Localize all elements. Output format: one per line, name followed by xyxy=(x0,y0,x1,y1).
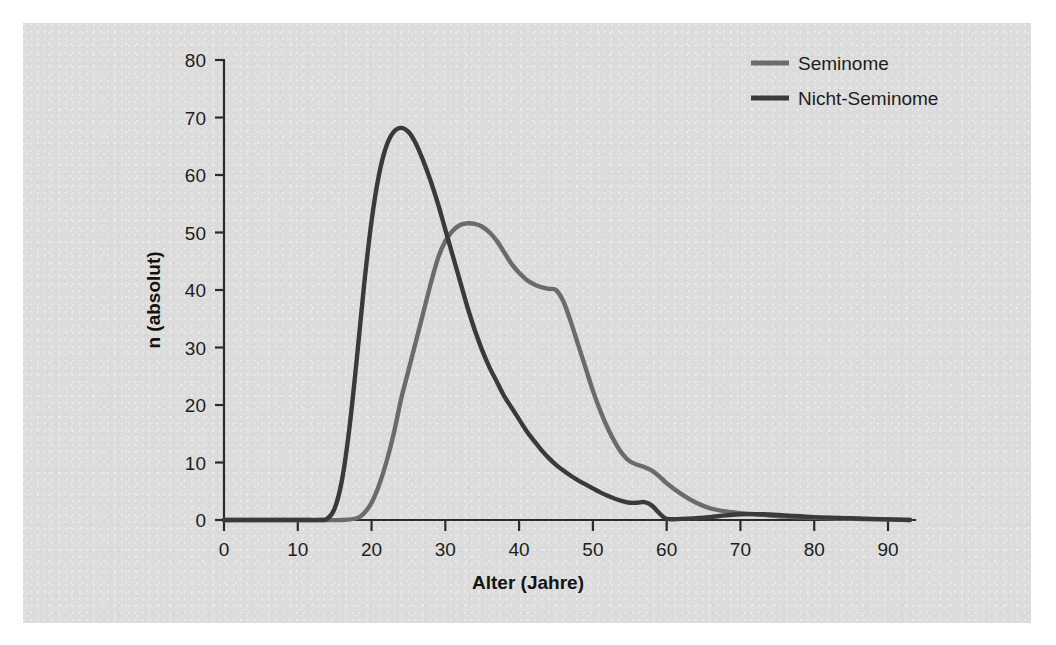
y-axis-ticks: 01020304050607080 xyxy=(185,50,224,531)
x-tick-label: 30 xyxy=(435,539,456,560)
y-tick-label: 30 xyxy=(185,338,206,359)
y-tick-label: 40 xyxy=(185,280,206,301)
x-tick-label: 80 xyxy=(804,539,825,560)
series-line-nicht-seminome xyxy=(224,128,910,520)
x-axis-ticks: 0102030405060708090 xyxy=(219,520,899,560)
y-tick-label: 0 xyxy=(195,510,206,531)
y-tick-label: 80 xyxy=(185,50,206,71)
y-tick-label: 10 xyxy=(185,453,206,474)
axes-group xyxy=(224,60,915,520)
legend-label: Seminome xyxy=(798,53,889,74)
x-tick-label: 70 xyxy=(730,539,751,560)
figure-root: 01020304050607080 0102030405060708090 n … xyxy=(0,0,1056,645)
x-tick-label: 40 xyxy=(509,539,530,560)
chart-legend: SeminomeNicht-Seminome xyxy=(751,53,938,109)
x-tick-label: 10 xyxy=(287,539,308,560)
y-tick-label: 60 xyxy=(185,165,206,186)
line-chart: 01020304050607080 0102030405060708090 n … xyxy=(0,0,1056,645)
x-tick-label: 60 xyxy=(656,539,677,560)
data-series-group xyxy=(224,128,910,520)
y-tick-label: 50 xyxy=(185,223,206,244)
y-tick-label: 70 xyxy=(185,108,206,129)
x-tick-label: 90 xyxy=(877,539,898,560)
x-tick-label: 50 xyxy=(582,539,603,560)
y-axis-title: n (absolut) xyxy=(143,251,164,348)
y-tick-label: 20 xyxy=(185,395,206,416)
x-axis-title: Alter (Jahre) xyxy=(472,572,584,593)
x-tick-label: 0 xyxy=(219,539,230,560)
legend-label: Nicht-Seminome xyxy=(798,88,938,109)
x-tick-label: 20 xyxy=(361,539,382,560)
